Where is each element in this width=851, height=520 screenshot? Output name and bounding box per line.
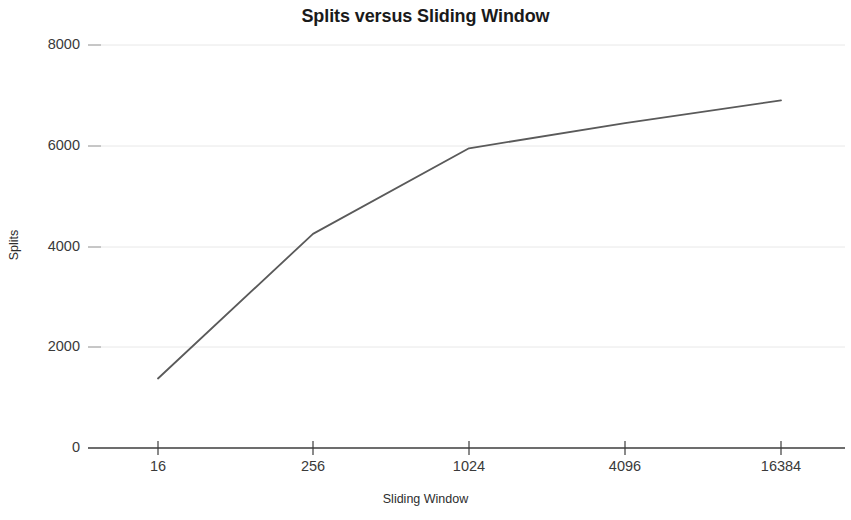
x-tick-label-256: 256: [263, 458, 363, 474]
y-tick-marks: [88, 45, 101, 347]
y-tick-label-0: 0: [0, 439, 80, 455]
plot-area: [0, 0, 851, 520]
x-tick-label-16: 16: [108, 458, 208, 474]
data-line-splits: [158, 100, 781, 378]
x-axis-label: Sliding Window: [0, 492, 851, 506]
y-tick-label-2000: 2000: [0, 338, 80, 354]
x-tick-label-4096: 4096: [575, 458, 675, 474]
y-axis-label: Splits: [7, 215, 21, 275]
x-tick-label-1024: 1024: [419, 458, 519, 474]
gridlines: [88, 45, 845, 347]
y-tick-label-8000: 8000: [0, 36, 80, 52]
chart-container: Splits versus Sliding Window: [0, 0, 851, 520]
x-tick-label-16384: 16384: [731, 458, 831, 474]
y-tick-label-6000: 6000: [0, 137, 80, 153]
